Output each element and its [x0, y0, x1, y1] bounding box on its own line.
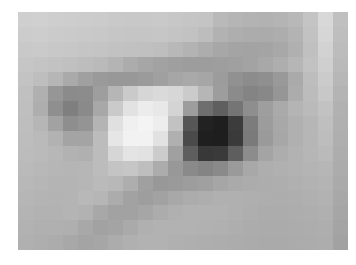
mosaic-block	[78, 86, 93, 101]
mosaic-block	[318, 220, 333, 235]
mosaic-block	[243, 27, 258, 42]
mosaic-block	[288, 205, 303, 220]
mosaic-block	[228, 86, 243, 101]
mosaic-block	[243, 220, 258, 235]
mosaic-block	[273, 42, 288, 57]
mosaic-block	[288, 176, 303, 191]
mosaic-block	[243, 42, 258, 57]
mosaic-block	[48, 161, 63, 176]
mosaic-block	[258, 191, 273, 206]
mosaic-block	[78, 12, 93, 27]
mosaic-block	[333, 12, 348, 27]
mosaic-block	[228, 42, 243, 57]
mosaic-block	[18, 27, 33, 42]
mosaic-block	[183, 12, 198, 27]
mosaic-block	[63, 131, 78, 146]
mosaic-block	[288, 12, 303, 27]
mosaic-block	[48, 57, 63, 72]
mosaic-block	[63, 27, 78, 42]
mosaic-block	[183, 131, 198, 146]
mosaic-block	[258, 101, 273, 116]
mosaic-block	[198, 205, 213, 220]
mosaic-block	[258, 235, 273, 250]
mosaic-block	[273, 116, 288, 131]
mosaic-block	[243, 176, 258, 191]
mosaic-block	[303, 72, 318, 87]
mosaic-block	[48, 176, 63, 191]
mosaic-block	[48, 27, 63, 42]
mosaic-block	[153, 131, 168, 146]
mosaic-block	[303, 12, 318, 27]
mosaic-block	[138, 205, 153, 220]
mosaic-block	[153, 57, 168, 72]
mosaic-block	[123, 176, 138, 191]
mosaic-block	[108, 131, 123, 146]
mosaic-block	[288, 116, 303, 131]
mosaic-block	[108, 42, 123, 57]
mosaic-block	[153, 86, 168, 101]
mosaic-block	[333, 235, 348, 250]
mosaic-block	[243, 146, 258, 161]
mosaic-block	[138, 72, 153, 87]
mosaic-block	[78, 101, 93, 116]
mosaic-block	[258, 176, 273, 191]
mosaic-block	[108, 57, 123, 72]
mosaic-block	[138, 220, 153, 235]
mosaic-block	[18, 42, 33, 57]
mosaic-block	[318, 205, 333, 220]
mosaic-block	[318, 42, 333, 57]
mosaic-block	[198, 27, 213, 42]
mosaic-block	[288, 235, 303, 250]
mosaic-block	[333, 101, 348, 116]
mosaic-block	[213, 86, 228, 101]
mosaic-block	[183, 146, 198, 161]
mosaic-block	[48, 42, 63, 57]
mosaic-block	[168, 27, 183, 42]
mosaic-block	[258, 205, 273, 220]
mosaic-block	[318, 235, 333, 250]
mosaic-block	[153, 191, 168, 206]
mosaic-block	[93, 176, 108, 191]
mosaic-block	[273, 86, 288, 101]
mosaic-block	[213, 101, 228, 116]
mosaic-block	[123, 131, 138, 146]
mosaic-block	[108, 220, 123, 235]
mosaic-block	[153, 205, 168, 220]
mosaic-block	[108, 205, 123, 220]
mosaic-block	[123, 42, 138, 57]
mosaic-block	[183, 191, 198, 206]
mosaic-block	[303, 161, 318, 176]
mosaic-block	[138, 116, 153, 131]
mosaic-block	[123, 57, 138, 72]
mosaic-block	[33, 57, 48, 72]
mosaic-block	[18, 101, 33, 116]
mosaic-block	[333, 205, 348, 220]
mosaic-block	[303, 205, 318, 220]
mosaic-block	[33, 131, 48, 146]
mosaic-block	[183, 220, 198, 235]
mosaic-block	[273, 57, 288, 72]
mosaic-block	[318, 116, 333, 131]
mosaic-block	[288, 191, 303, 206]
mosaic-block	[18, 116, 33, 131]
mosaic-block	[168, 146, 183, 161]
mosaic-block	[228, 131, 243, 146]
mosaic-block	[168, 176, 183, 191]
mosaic-block	[258, 220, 273, 235]
mosaic-block	[168, 131, 183, 146]
mosaic-block	[93, 72, 108, 87]
mosaic-block	[108, 116, 123, 131]
mosaic-block	[318, 176, 333, 191]
mosaic-block	[213, 220, 228, 235]
mosaic-block	[198, 146, 213, 161]
mosaic-block	[198, 235, 213, 250]
mosaic-block	[108, 86, 123, 101]
mosaic-block	[78, 42, 93, 57]
mosaic-block	[333, 191, 348, 206]
mosaic-block	[18, 86, 33, 101]
mosaic-block	[333, 220, 348, 235]
mosaic-block	[48, 72, 63, 87]
mosaic-block	[123, 12, 138, 27]
mosaic-block	[63, 101, 78, 116]
mosaic-block	[198, 220, 213, 235]
